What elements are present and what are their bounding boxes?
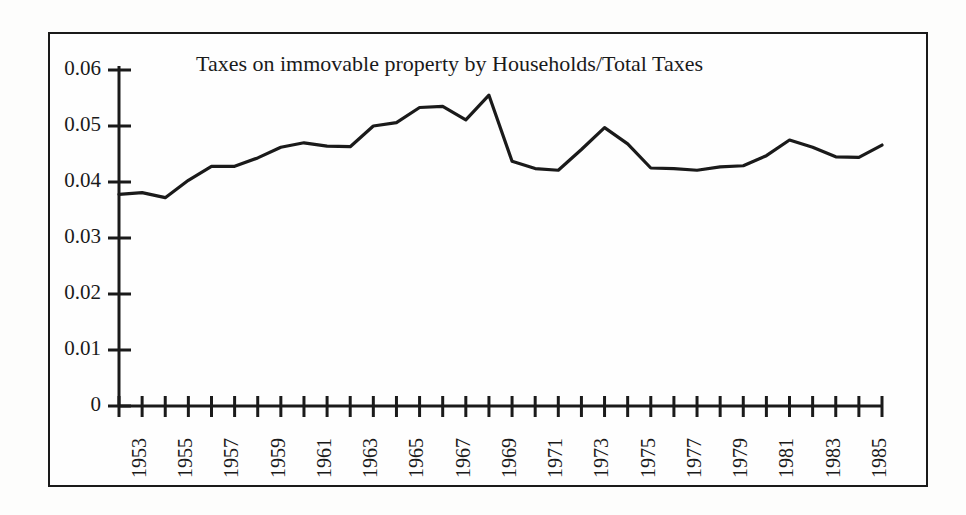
x-axis-tick-label: 1963 <box>359 438 382 478</box>
x-axis-tick-label: 1983 <box>822 438 845 478</box>
y-axis-tick-label: 0.06 <box>64 56 101 81</box>
x-axis-tick-label: 1961 <box>313 438 336 478</box>
x-axis-tick-label: 1969 <box>498 438 521 478</box>
x-axis-tick-label: 1973 <box>590 438 613 478</box>
x-axis-tick-label: 1957 <box>220 438 243 478</box>
x-axis-tick-label: 1965 <box>405 438 428 478</box>
x-axis-tick-label: 1959 <box>267 438 290 478</box>
x-axis-tick-label: 1979 <box>729 438 752 478</box>
y-axis-tick-label: 0.05 <box>64 112 101 137</box>
x-axis-tick-label: 1955 <box>174 438 197 478</box>
x-axis-tick-label: 1975 <box>637 438 660 478</box>
chart-figure: Taxes on immovable property by Household… <box>0 0 966 515</box>
y-axis-tick-label: 0 <box>91 392 102 417</box>
y-axis-tick-label: 0.01 <box>64 336 101 361</box>
y-axis-tick-label: 0.03 <box>64 224 101 249</box>
y-axis-tick-label: 0.04 <box>64 168 101 193</box>
x-axis-tick-label: 1967 <box>452 438 475 478</box>
x-axis-tick-label: 1971 <box>544 438 567 478</box>
axes <box>119 66 882 406</box>
x-axis-tick-label: 1977 <box>683 438 706 478</box>
x-axis-tick-label: 1981 <box>775 438 798 478</box>
data-series-line <box>119 95 882 197</box>
y-axis-tick-label: 0.02 <box>64 280 101 305</box>
x-axis-tick-label: 1953 <box>128 438 151 478</box>
x-axis-tick-label: 1985 <box>868 438 891 478</box>
